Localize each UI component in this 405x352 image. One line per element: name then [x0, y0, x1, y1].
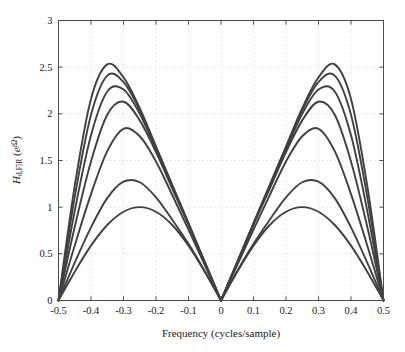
x-tick-label: 0.2 — [279, 305, 292, 316]
figure-canvas: -0.5-0.4-0.3-0.2-0.100.10.20.30.40.5 00.… — [0, 0, 405, 352]
x-tick-label: 0.4 — [344, 305, 358, 316]
x-tick-label: 0 — [218, 305, 223, 316]
x-tick-label: -0.4 — [83, 305, 100, 316]
x-tick-label: 0.3 — [312, 305, 325, 316]
y-tick-label: 1.5 — [39, 155, 52, 166]
y-tick-label: 2 — [47, 108, 52, 119]
y-axis-label-sub: d,FIR — [15, 159, 24, 176]
y-axis-label-paren-close: ) — [10, 136, 23, 140]
y-tick-label: 0 — [47, 295, 52, 306]
frequency-response-chart: -0.5-0.4-0.3-0.2-0.100.10.20.30.40.5 00.… — [0, 0, 405, 352]
x-tick-label: 0.1 — [247, 305, 260, 316]
y-tick-label: 0.5 — [39, 248, 52, 259]
x-axis-label: Frequency (cycles/sample) — [162, 327, 281, 340]
y-tick-label: 1 — [47, 202, 52, 213]
x-tick-label: -0.1 — [180, 305, 197, 316]
x-tick-label: 0.5 — [377, 305, 390, 316]
x-tick-label: -0.5 — [50, 305, 67, 316]
x-tick-label: -0.2 — [148, 305, 165, 316]
y-tick-label: 3 — [47, 15, 52, 26]
x-tick-label: -0.3 — [115, 305, 132, 316]
y-tick-label: 2.5 — [39, 62, 52, 73]
